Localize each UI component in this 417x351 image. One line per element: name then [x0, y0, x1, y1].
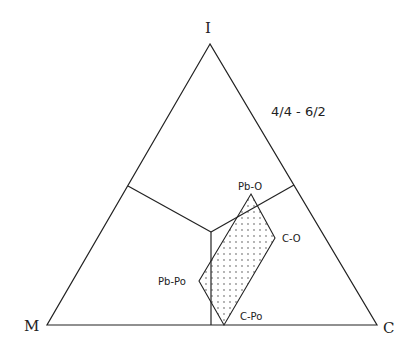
- boundary-line-left: [128, 186, 211, 232]
- vertex-label-m: M: [24, 317, 39, 335]
- vertex-label-i: I: [205, 19, 211, 37]
- region-label-c-o: C-O: [282, 233, 301, 244]
- diagram-title: 4/4 - 6/2: [271, 104, 326, 119]
- region-label-pb-po: Pb-Po: [158, 276, 186, 287]
- ternary-diagram: I M C 4/4 - 6/2 Pb-O C-O C-Po Pb-Po: [0, 0, 417, 351]
- region-label-pb-o: Pb-O: [238, 181, 262, 192]
- vertex-label-c: C: [383, 319, 394, 337]
- region-label-c-po: C-Po: [240, 311, 262, 322]
